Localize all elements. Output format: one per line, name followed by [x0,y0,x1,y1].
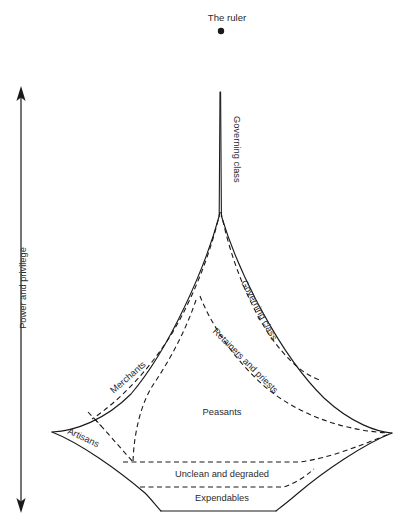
label-governing-class-spire: Governing class [232,116,242,183]
outer-outline [52,92,392,511]
diagram-canvas: The ruler Power and privilege [0,0,403,525]
label-artisans: Artisans [66,426,101,449]
social-stratification-diagram: The ruler Power and privilege [0,0,403,525]
upper-left-flank [52,216,219,432]
spire-right-edge [221,92,222,216]
ruler-dot [218,28,224,34]
axis-label-power-and-privilege: Power and privilege [18,247,28,329]
label-unclean-and-degraded: Unclean and degraded [175,469,269,479]
title-the-ruler: The ruler [208,12,247,23]
lower-left-flank [52,432,161,511]
label-expendables: Expendables [195,493,249,503]
label-peasants: Peasants [203,407,242,417]
label-merchants: Merchants [108,359,148,395]
spire-left-edge [219,92,220,216]
lower-right-flank [276,433,392,511]
upper-right-flank [221,216,392,433]
boundary-peasants-unclean [123,434,389,462]
boundary-merchants [133,300,196,462]
label-governing-class-band: Governing class [239,278,279,342]
power-and-privilege-axis: Power and privilege [16,86,28,513]
stratum-labels: Governing class Governing class Retainer… [66,116,280,503]
